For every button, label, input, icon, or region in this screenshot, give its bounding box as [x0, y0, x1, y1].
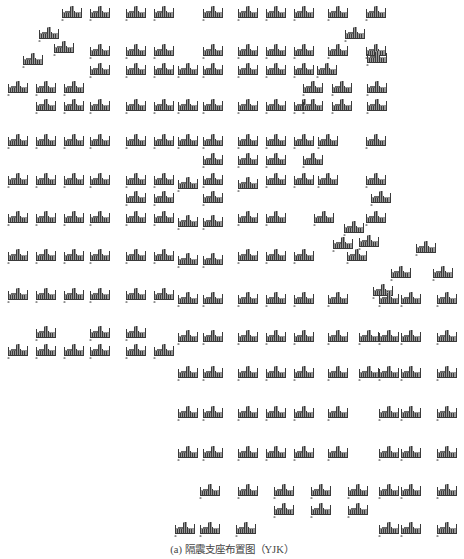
- isolation-bearing-icon: [400, 483, 422, 499]
- isolation-bearing-icon: [313, 210, 335, 226]
- isolation-bearing-icon: [125, 62, 147, 78]
- isolation-bearing-icon: [125, 43, 147, 59]
- isolation-bearing-icon: [177, 133, 199, 149]
- isolation-bearing-icon: [89, 210, 111, 226]
- isolation-bearing-icon: [265, 405, 287, 421]
- isolation-bearing-icon: [177, 329, 199, 345]
- isolation-bearing-icon: [177, 176, 199, 192]
- isolation-bearing-icon: [35, 80, 57, 96]
- isolation-bearing-icon: [22, 52, 44, 68]
- isolation-bearing-icon: [35, 325, 57, 341]
- isolation-bearing-icon: [202, 62, 224, 78]
- isolation-bearing-icon: [235, 521, 257, 537]
- isolation-bearing-icon: [125, 133, 147, 149]
- isolation-bearing-icon: [237, 210, 259, 226]
- isolation-bearing-icon: [202, 291, 224, 307]
- isolation-bearing-icon: [293, 172, 315, 188]
- isolation-bearing-icon: [273, 483, 295, 499]
- isolation-bearing-icon: [89, 98, 111, 114]
- isolation-bearing-icon: [153, 248, 175, 264]
- isolation-bearing-icon: [436, 405, 458, 421]
- isolation-bearing-icon: [293, 43, 315, 59]
- isolation-bearing-icon: [265, 98, 287, 114]
- isolation-bearing-icon: [265, 248, 287, 264]
- isolation-bearing-icon: [7, 133, 29, 149]
- isolation-bearing-icon: [125, 98, 147, 114]
- isolation-bearing-icon: [436, 483, 458, 499]
- isolation-bearing-icon: [293, 5, 315, 21]
- isolation-bearing-icon: [202, 190, 224, 206]
- isolation-bearing-icon: [153, 287, 175, 303]
- isolation-bearing-icon: [365, 210, 387, 226]
- isolation-bearing-icon: [265, 291, 287, 307]
- isolation-bearing-icon: [327, 365, 349, 381]
- isolation-bearing-icon: [331, 80, 353, 96]
- isolation-bearing-icon: [400, 445, 422, 461]
- isolation-bearing-icon: [177, 291, 199, 307]
- isolation-bearing-icon: [199, 521, 221, 537]
- isolation-bearing-icon: [177, 445, 199, 461]
- isolation-bearing-icon: [237, 248, 259, 264]
- isolation-bearing-icon: [35, 287, 57, 303]
- isolation-bearing-icon: [365, 133, 387, 149]
- isolation-bearing-icon: [265, 172, 287, 188]
- isolation-bearing-icon: [202, 445, 224, 461]
- isolation-bearing-icon: [63, 98, 85, 114]
- isolation-bearing-icon: [153, 98, 175, 114]
- isolation-bearing-icon: [378, 329, 400, 345]
- isolation-bearing-icon: [153, 343, 175, 359]
- isolation-bearing-icon: [265, 329, 287, 345]
- isolation-bearing-icon: [293, 133, 315, 149]
- isolation-bearing-icon: [63, 172, 85, 188]
- isolation-bearing-icon: [153, 62, 175, 78]
- isolation-bearing-icon: [89, 133, 111, 149]
- isolation-bearing-icon: [366, 80, 388, 96]
- isolation-bearing-icon: [153, 210, 175, 226]
- isolation-bearing-icon: [89, 325, 111, 341]
- isolation-bearing-icon: [63, 287, 85, 303]
- isolation-bearing-icon: [177, 365, 199, 381]
- isolation-bearing-icon: [265, 445, 287, 461]
- isolation-bearing-icon: [61, 5, 83, 21]
- isolation-bearing-icon: [293, 365, 315, 381]
- isolation-bearing-icon: [177, 252, 199, 268]
- isolation-bearing-icon: [237, 176, 259, 192]
- isolation-bearing-icon: [177, 405, 199, 421]
- isolation-bearing-icon: [365, 172, 387, 188]
- isolation-bearing-icon: [237, 405, 259, 421]
- isolation-bearing-icon: [125, 325, 147, 341]
- isolation-bearing-icon: [153, 5, 175, 21]
- isolation-bearing-icon: [199, 483, 221, 499]
- isolation-bearing-icon: [327, 5, 349, 21]
- isolation-bearing-icon: [237, 365, 259, 381]
- isolation-bearing-icon: [237, 445, 259, 461]
- isolation-bearing-icon: [174, 521, 196, 537]
- isolation-bearing-icon: [400, 365, 422, 381]
- isolation-bearing-icon: [327, 445, 349, 461]
- isolation-bearing-icon: [237, 5, 259, 21]
- isolation-bearing-icon: [7, 343, 29, 359]
- isolation-bearing-icon: [35, 343, 57, 359]
- isolation-bearing-icon: [63, 80, 85, 96]
- isolation-bearing-icon: [153, 133, 175, 149]
- isolation-bearing-icon: [7, 172, 29, 188]
- isolation-bearing-icon: [347, 502, 369, 518]
- isolation-bearing-icon: [378, 405, 400, 421]
- isolation-bearing-icon: [177, 98, 199, 114]
- isolation-bearing-icon: [370, 190, 392, 206]
- isolation-bearing-icon: [63, 248, 85, 264]
- isolation-bearing-icon: [302, 80, 324, 96]
- isolation-bearing-icon: [125, 190, 147, 206]
- figure-caption: (a) 隔震支座布置图（YJK）: [0, 541, 464, 556]
- isolation-bearing-icon: [89, 172, 111, 188]
- isolation-bearing-icon: [317, 172, 339, 188]
- isolation-bearing-icon: [237, 291, 259, 307]
- isolation-bearing-icon: [436, 329, 458, 345]
- isolation-bearing-icon: [415, 240, 437, 256]
- isolation-bearing-icon: [237, 133, 259, 149]
- isolation-bearing-icon: [265, 43, 287, 59]
- isolation-bearing-icon: [202, 5, 224, 21]
- isolation-bearing-icon: [53, 40, 75, 56]
- isolation-bearing-icon: [358, 365, 380, 381]
- isolation-bearing-icon: [237, 62, 259, 78]
